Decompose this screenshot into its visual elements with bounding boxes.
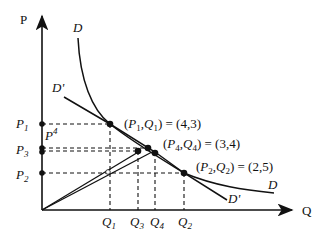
- ray-to-p4q4: [42, 152, 152, 210]
- svg-text:Q3: Q3: [130, 214, 144, 231]
- label-d-top: D: [72, 20, 83, 35]
- svg-text:P3: P3: [15, 142, 29, 159]
- price-labels: P1 P4 P3 P2: [15, 116, 58, 184]
- quantity-labels: Q1 Q3 Q4 Q2: [102, 214, 192, 231]
- label-d-prime-bottom: D': [227, 191, 240, 206]
- ray-to-p3q3: [42, 151, 140, 210]
- svg-text:Q2: Q2: [178, 214, 192, 231]
- label-d-prime-top: D': [51, 80, 64, 95]
- svg-text:P1: P1: [15, 116, 28, 133]
- annotation-point1: (P1,Q1) = (4,3): [124, 116, 201, 133]
- svg-text:Q1: Q1: [102, 214, 116, 231]
- annotation-point2: (P2,Q2) = (2,5): [196, 159, 273, 176]
- demand-elasticity-diagram: P Q D D' D D' P1 P4 P3 P2: [0, 0, 314, 242]
- svg-text:P4: P4: [44, 126, 58, 143]
- annotation-point4: (P4,Q4) = (3,4): [163, 136, 240, 153]
- svg-text:Q4: Q4: [150, 214, 164, 231]
- svg-text:P2: P2: [15, 167, 29, 184]
- x-axis-label: Q: [302, 203, 312, 218]
- y-axis-label: P: [20, 12, 27, 27]
- label-d-right: D: [267, 177, 278, 192]
